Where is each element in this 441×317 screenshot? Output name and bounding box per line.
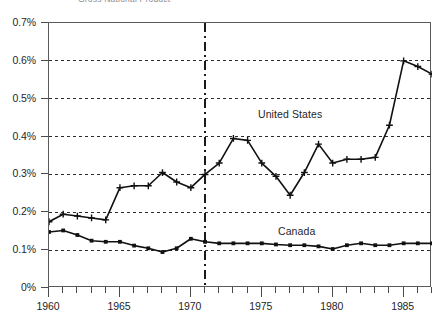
x-tick-mark <box>204 287 205 293</box>
x-tick-mark <box>76 287 77 293</box>
marker-plus <box>343 156 350 163</box>
y-tick-label: 0.2% <box>12 205 36 217</box>
x-tick-mark <box>303 287 304 293</box>
marker-square <box>49 230 51 234</box>
x-tick-mark <box>133 287 134 293</box>
marker-plus <box>131 182 138 189</box>
marker-square <box>132 244 136 248</box>
x-tick-mark <box>91 287 92 293</box>
marker-square <box>90 239 94 243</box>
y-tick-mark <box>41 60 48 61</box>
marker-plus <box>102 216 109 223</box>
marker-plus <box>386 122 393 129</box>
x-tick-mark <box>261 287 262 297</box>
y-axis: 0%0.1%0.2%0.3%0.4%0.5%0.6%0.7% <box>0 22 44 287</box>
x-tick-mark <box>161 287 162 293</box>
x-tick-label: 1960 <box>37 300 60 312</box>
marker-square <box>331 247 335 251</box>
plot-area <box>48 22 431 287</box>
series-line-united-states <box>49 61 432 222</box>
marker-square <box>161 250 165 254</box>
x-tick-mark <box>346 287 347 293</box>
x-tick-mark <box>318 287 319 293</box>
marker-square <box>274 243 278 247</box>
x-tick-mark <box>332 287 333 297</box>
marker-square <box>388 243 392 247</box>
x-tick-mark <box>218 287 219 293</box>
marker-plus <box>414 63 421 70</box>
x-tick-mark <box>48 287 49 297</box>
marker-plus <box>74 213 81 220</box>
series-markers-united-states <box>49 57 432 225</box>
marker-square <box>232 241 236 245</box>
marker-square <box>246 241 250 245</box>
marker-square <box>189 237 193 241</box>
marker-plus <box>117 184 124 191</box>
marker-square <box>118 240 122 244</box>
x-tick-mark <box>247 287 248 293</box>
x-tick-mark <box>119 287 120 297</box>
y-tick-label: 0.3% <box>12 167 36 179</box>
x-tick-mark <box>62 287 63 293</box>
chart-title: Gross National Product <box>78 0 258 4</box>
marker-square <box>302 243 306 247</box>
plot-svg <box>49 23 432 288</box>
y-tick-label: 0.1% <box>12 243 36 255</box>
x-tick-mark <box>431 287 432 293</box>
marker-square <box>260 241 264 245</box>
y-tick-mark <box>41 98 48 99</box>
x-tick-mark <box>275 287 276 293</box>
marker-square <box>217 241 221 245</box>
y-tick-mark <box>41 287 48 288</box>
marker-square <box>359 241 363 245</box>
x-tick-label: 1980 <box>320 300 343 312</box>
x-tick-mark <box>388 287 389 293</box>
marker-plus <box>358 156 365 163</box>
marker-square <box>146 246 150 250</box>
x-tick-mark <box>289 287 290 293</box>
x-tick-mark <box>360 287 361 293</box>
y-tick-label: 0.6% <box>12 54 36 66</box>
y-tick-mark <box>41 211 48 212</box>
marker-square <box>345 243 349 247</box>
x-tick-mark <box>403 287 404 297</box>
x-tick-mark <box>176 287 177 293</box>
x-tick-mark <box>147 287 148 293</box>
y-tick-mark <box>41 136 48 137</box>
marker-plus <box>60 211 67 218</box>
series-label-canada: Canada <box>278 225 315 237</box>
x-tick-mark <box>190 287 191 297</box>
marker-square <box>317 244 321 248</box>
marker-square <box>416 241 420 245</box>
x-tick-label: 1965 <box>107 300 130 312</box>
marker-square <box>430 241 432 245</box>
gnp-line-chart: Gross National Product 0%0.1%0.2%0.3%0.4… <box>0 0 441 317</box>
x-tick-label: 1975 <box>249 300 272 312</box>
marker-square <box>288 243 292 247</box>
y-tick-mark <box>41 173 48 174</box>
x-axis: 196019651970197519801985 <box>48 287 431 317</box>
marker-square <box>175 246 179 250</box>
x-tick-mark <box>417 287 418 293</box>
x-tick-mark <box>232 287 233 293</box>
series-label-united-states: United States <box>258 108 322 120</box>
marker-plus <box>88 215 95 222</box>
marker-plus <box>372 154 379 161</box>
y-tick-mark <box>41 249 48 250</box>
marker-square <box>61 229 65 233</box>
marker-square <box>104 240 108 244</box>
x-tick-mark <box>105 287 106 293</box>
marker-square <box>402 241 406 245</box>
y-tick-label: 0.7% <box>12 16 36 28</box>
marker-plus <box>400 57 407 64</box>
x-tick-label: 1970 <box>178 300 201 312</box>
y-tick-label: 0.4% <box>12 130 36 142</box>
marker-square <box>203 240 207 244</box>
x-tick-mark <box>374 287 375 293</box>
y-tick-label: 0.5% <box>12 92 36 104</box>
x-tick-label: 1985 <box>391 300 414 312</box>
marker-square <box>373 243 377 247</box>
marker-square <box>75 233 79 237</box>
y-tick-label: 0% <box>21 281 36 293</box>
y-tick-mark <box>41 22 48 23</box>
